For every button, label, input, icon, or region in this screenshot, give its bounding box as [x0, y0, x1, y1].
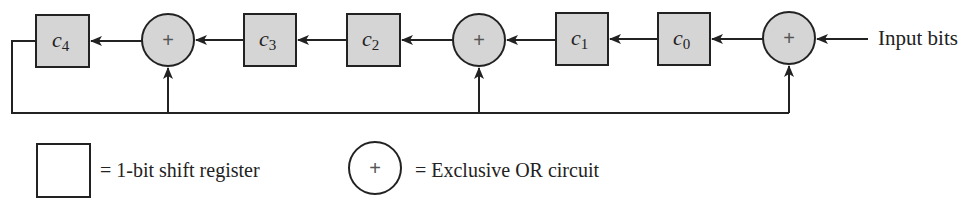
xor-gate-1: + [142, 14, 194, 66]
legend-xor: + = Exclusive OR circuit [349, 142, 599, 194]
xor-gate-3: + [763, 12, 815, 64]
legend-register: = 1-bit shift register [37, 144, 260, 197]
register-c4: c4 [36, 15, 89, 67]
legend: = 1-bit shift register + = Exclusive OR … [37, 142, 599, 197]
svg-text:+: + [783, 27, 795, 49]
crc-circuit-diagram: c4 + c3 c2 + c1 c0 + Input bits = [0, 0, 977, 219]
register-c1: c1 [556, 13, 608, 65]
input-bits-label: Input bits [878, 26, 958, 50]
register-c2: c2 [347, 14, 400, 66]
register-c3: c3 [244, 14, 296, 66]
svg-text:+: + [162, 29, 174, 51]
svg-text:+: + [473, 29, 485, 51]
register-c0: c0 [658, 13, 710, 65]
legend-xor-text: = Exclusive OR circuit [415, 159, 599, 181]
legend-register-text: = 1-bit shift register [100, 159, 260, 182]
legend-register-icon [37, 144, 90, 197]
xor-gate-2: + [453, 14, 505, 66]
svg-text:+: + [369, 157, 381, 179]
